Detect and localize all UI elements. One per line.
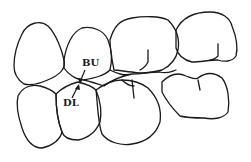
upper-tooth-1 bbox=[14, 23, 64, 85]
lower-tooth-1 bbox=[17, 85, 62, 148]
upper-tooth-4 bbox=[176, 12, 237, 62]
teeth-diagram: BU DL bbox=[0, 0, 251, 162]
lower-tooth-4-groove bbox=[198, 80, 200, 90]
dl-arrowhead bbox=[75, 84, 80, 90]
upper-tooth-4-groove bbox=[210, 44, 218, 60]
upper-tooth-2 bbox=[64, 28, 111, 81]
label-dl: DL bbox=[63, 97, 79, 108]
upper-tooth-3 bbox=[110, 17, 179, 73]
lower-tooth-2 bbox=[56, 82, 101, 140]
label-bu: BU bbox=[82, 57, 99, 68]
lower-tooth-3-groove bbox=[132, 80, 134, 98]
lower-tooth-3 bbox=[96, 80, 160, 145]
upper-tooth-3-groove bbox=[140, 50, 148, 70]
lower-tooth-4 bbox=[162, 74, 229, 119]
